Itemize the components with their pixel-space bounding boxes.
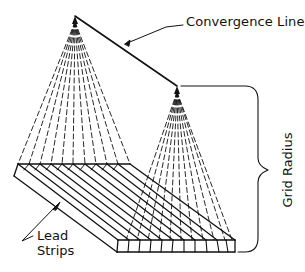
convergence-line	[75, 16, 177, 86]
lead-strips-label-line2: Strips	[37, 244, 74, 257]
small-fan-rays	[126, 92, 232, 240]
grid-radius-label: Grid Radius	[281, 132, 294, 207]
strip-back-ticks	[24, 164, 118, 170]
small-fan-apex	[174, 86, 180, 94]
convergence-leader	[125, 25, 183, 46]
large-fan-rays	[18, 22, 130, 164]
strip-front-ends	[128, 240, 228, 252]
grid-radius-bracket	[181, 86, 268, 252]
lead-strips-label-line1: Lead	[37, 229, 68, 242]
convergence-line-label: Convergence Line	[186, 15, 305, 28]
